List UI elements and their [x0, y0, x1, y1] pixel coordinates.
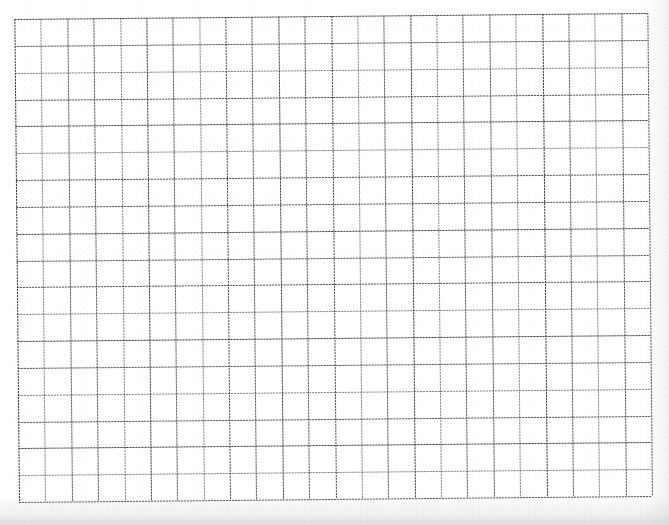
graph-paper-grid [14, 13, 652, 502]
scanned-page [0, 0, 669, 525]
